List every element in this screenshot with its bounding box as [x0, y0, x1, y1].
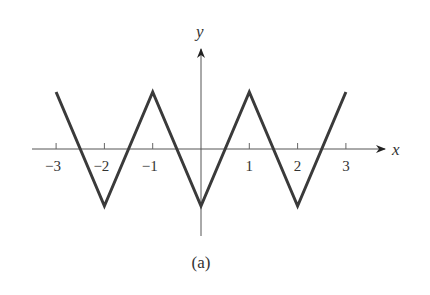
y-axis-label: y: [194, 22, 204, 41]
x-tick-label: 1: [246, 158, 254, 174]
x-tick-label: 2: [294, 158, 302, 174]
x-tick-label: −1: [142, 158, 158, 174]
figure-caption: (a): [192, 253, 211, 272]
x-tick-label: −3: [45, 158, 61, 174]
chart-canvas: −3−2−1123 x y (a): [0, 0, 430, 295]
x-tick-label: 3: [342, 158, 350, 174]
x-axis-label: x: [391, 140, 400, 159]
x-tick-label: −2: [93, 158, 109, 174]
